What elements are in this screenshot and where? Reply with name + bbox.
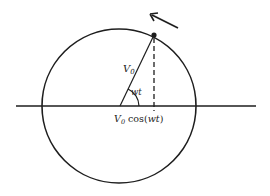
vector-tip-dot <box>151 32 156 37</box>
projection-label: V0 cos(wt) <box>114 113 163 126</box>
angle-label: wt <box>131 87 142 97</box>
vector-label: V0 <box>123 63 135 76</box>
rotation-arrow-shaft <box>152 15 178 28</box>
diagram-canvas: V0 wt V0 cos(wt) <box>0 0 270 196</box>
phasor-diagram: V0 wt V0 cos(wt) <box>0 0 270 196</box>
